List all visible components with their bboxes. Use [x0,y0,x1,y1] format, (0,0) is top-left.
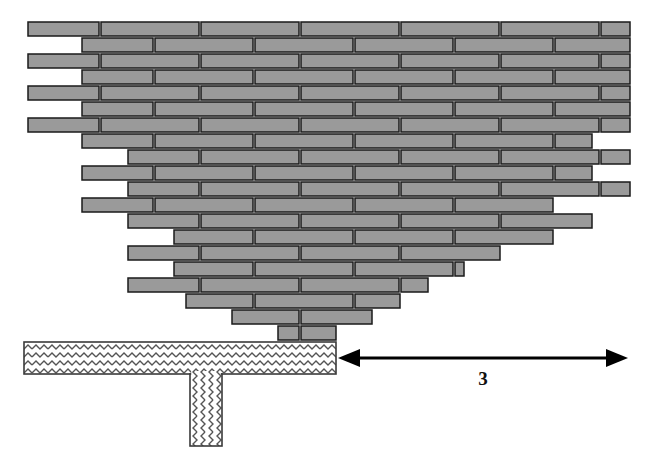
brick [601,150,630,164]
brick [501,150,599,164]
brick [128,278,199,292]
brick [101,54,199,68]
brick [174,262,253,276]
brick [128,214,199,228]
brick [501,214,592,228]
brick [301,326,336,340]
brick [201,278,299,292]
brick [255,166,353,180]
brick-course [28,86,630,100]
brick [255,230,353,244]
brick [201,54,299,68]
brick [301,310,372,324]
brick [401,182,499,196]
brick [501,86,599,100]
brick-course [82,38,630,52]
dimension-label: 3 [478,368,488,389]
brick [278,326,299,340]
brick [555,102,630,116]
brick [155,70,253,84]
brick [455,230,553,244]
brick-course [128,150,630,164]
brick [82,102,153,116]
brick [174,230,253,244]
brick-course [278,326,336,340]
brick [155,166,253,180]
brick [501,118,599,132]
brick [301,150,399,164]
brick [455,166,553,180]
brick [601,86,630,100]
brick [301,278,399,292]
foundation-stem-top-joint [191,371,221,376]
brick [82,70,153,84]
diagram-canvas: 3 [0,0,654,454]
brick [555,134,592,148]
brick [28,86,99,100]
brick [82,166,153,180]
brick [355,166,453,180]
brick-course [128,278,428,292]
brick [301,54,399,68]
brick [601,22,630,36]
brick [401,278,428,292]
brick [601,118,630,132]
brick [501,182,599,196]
brick [555,70,630,84]
brick [301,246,399,260]
brick [401,150,499,164]
brick [255,70,353,84]
brick-course [128,182,630,196]
brick [455,198,553,212]
brick [355,198,453,212]
brick [155,134,253,148]
brick-course [28,118,630,132]
brick [101,118,199,132]
brick [555,166,592,180]
brick [401,22,499,36]
brick [301,182,399,196]
brick [128,150,199,164]
brick [128,182,199,196]
brick [401,86,499,100]
brick [255,134,353,148]
brick [455,38,553,52]
brick [501,22,599,36]
masonry-section-figure: 3 [0,0,654,454]
brick-course [128,246,500,260]
brick-course [186,294,400,308]
brick [201,150,299,164]
brick [355,294,400,308]
brick [455,70,553,84]
brick [355,134,453,148]
brick [601,182,630,196]
brick [82,38,153,52]
brick [455,262,464,276]
brick [186,294,253,308]
brick [232,310,299,324]
brick-course [232,310,372,324]
brick [128,246,199,260]
brick [301,118,399,132]
brick [201,86,299,100]
brick [301,22,399,36]
brick [201,246,299,260]
brick [28,118,99,132]
brick-course [82,198,553,212]
brick [201,22,299,36]
brick [255,198,353,212]
brick [28,22,99,36]
brick [255,38,353,52]
brick [28,54,99,68]
brick [401,54,499,68]
brick-course [28,22,630,36]
brick [501,54,599,68]
brick-course [128,214,592,228]
brick [355,230,453,244]
brick [82,198,153,212]
brick [355,262,453,276]
brick [401,214,499,228]
brick [82,134,153,148]
brick [455,134,553,148]
brick [255,102,353,116]
